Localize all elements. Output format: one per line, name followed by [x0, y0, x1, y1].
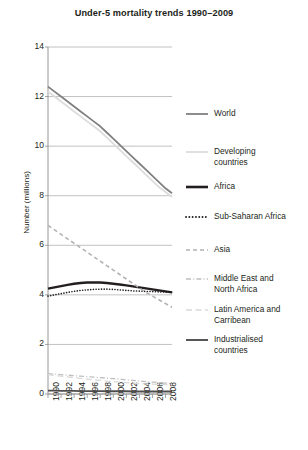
legend-item-label: Africa: [214, 181, 235, 192]
legend-swatch-icon: [186, 147, 208, 157]
series-line: [48, 92, 172, 197]
plot-area: [0, 0, 308, 450]
series-line: [48, 374, 172, 384]
legend-item[interactable]: Developing countries: [186, 146, 256, 167]
legend-item-label: Industrialised countries: [214, 334, 263, 355]
series-line: [48, 391, 172, 392]
legend-item-label: Middle East and North Africa: [214, 273, 274, 294]
legend-item-label: Developing countries: [214, 146, 256, 167]
legend-swatch-icon: [186, 109, 208, 119]
chart-figure: Under-5 mortality trends 1990–2009 Numbe…: [0, 0, 308, 450]
legend-item-label: Latin America and Carribean: [214, 304, 280, 325]
legend-item[interactable]: Asia: [186, 244, 230, 255]
series-line: [48, 282, 172, 292]
legend-item[interactable]: Africa: [186, 181, 235, 192]
legend-swatch-icon: [186, 274, 208, 284]
legend-item[interactable]: World: [186, 108, 236, 119]
legend-item-label: Asia: [214, 244, 230, 255]
series-line: [48, 375, 172, 385]
legend-swatch-icon: [186, 212, 208, 222]
legend-item[interactable]: Sub-Saharan Africa: [186, 211, 286, 222]
legend-swatch-icon: [186, 182, 208, 192]
legend-swatch-icon: [186, 245, 208, 255]
legend-item[interactable]: Latin America and Carribean: [186, 304, 280, 325]
legend-item[interactable]: Industrialised countries: [186, 334, 263, 355]
legend-swatch-icon: [186, 305, 208, 315]
legend-swatch-icon: [186, 335, 208, 345]
legend-item[interactable]: Middle East and North Africa: [186, 273, 274, 294]
legend-item-label: Sub-Saharan Africa: [214, 211, 286, 222]
legend-item-label: World: [214, 108, 236, 119]
